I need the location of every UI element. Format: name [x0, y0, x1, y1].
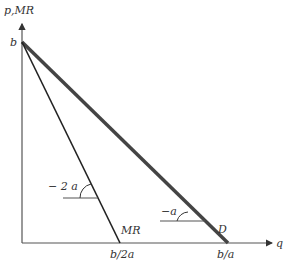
mr-x-intercept-label: b/2a [110, 248, 134, 261]
d-slope-label: −a [161, 205, 177, 218]
y-axis-label: p,MR [4, 4, 34, 17]
d-slope-arc [177, 212, 188, 221]
mr-label: MR [120, 224, 141, 237]
x-axis-label: q [276, 237, 283, 250]
mr-slope-arc [80, 184, 91, 198]
d-x-intercept-label: b/a [217, 248, 234, 261]
demand-mr-diagram: p,MR q b − 2 a −a MR D b/2a b/a [0, 0, 285, 265]
mr-line [22, 42, 120, 243]
intercept-label: b [10, 36, 17, 49]
mr-slope-label: − 2 a [48, 180, 78, 193]
d-label: D [217, 223, 227, 236]
demand-line [22, 42, 228, 243]
